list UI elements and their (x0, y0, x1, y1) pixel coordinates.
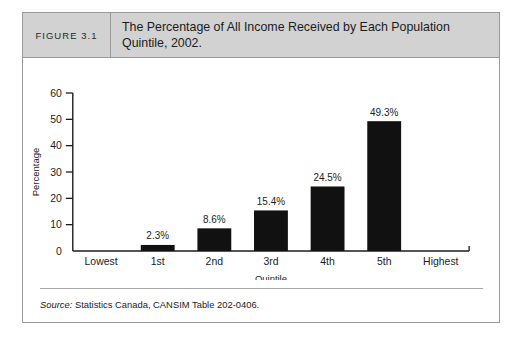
y-axis-tick-label: 30 (50, 167, 62, 178)
bar-value-label: 24.5% (313, 172, 341, 183)
x-axis-title: Quintile (255, 273, 287, 280)
bar-value-label: 2.3% (146, 230, 169, 241)
x-axis-tick-label: 1st (151, 256, 165, 267)
bar (311, 186, 345, 251)
y-axis-tick-label: 0 (56, 246, 62, 257)
y-axis-tick-label: 20 (50, 193, 62, 204)
y-axis-tick-label: 50 (50, 114, 62, 125)
x-axis-tick-label: 2nd (206, 256, 224, 267)
x-axis-tick-label: 4th (320, 256, 335, 267)
x-axis-tick-label: 3rd (263, 256, 278, 267)
bar-value-label: 49.3% (370, 107, 398, 118)
bar-value-label: 15.4% (257, 196, 285, 207)
bar (197, 228, 231, 251)
bar (141, 245, 175, 251)
figure-title-cell: The Percentage of All Income Received by… (111, 13, 499, 57)
y-axis-tick-label: 40 (50, 140, 62, 151)
source-prefix: Source: (40, 299, 72, 310)
x-axis-tick-label: 5th (377, 256, 392, 267)
y-axis-title: Percentage (30, 148, 41, 197)
bar-chart: 0102030405060Percentage2.3%8.6%15.4%24.5… (23, 58, 499, 280)
y-axis-tick-label: 60 (50, 88, 62, 99)
figure-title: The Percentage of All Income Received by… (122, 19, 474, 52)
x-axis-tick-label: Lowest (85, 256, 118, 267)
figure-container: FIGURE 3.1 The Percentage of All Income … (22, 12, 500, 323)
figure-header: FIGURE 3.1 The Percentage of All Income … (23, 13, 499, 58)
bar (254, 210, 288, 251)
figure-number-label: FIGURE 3.1 (35, 30, 97, 41)
source-text: Statistics Canada, CANSIM Table 202-0406… (75, 299, 259, 310)
source-divider (40, 288, 483, 289)
bar (367, 121, 401, 251)
bar-value-label: 8.6% (203, 214, 226, 225)
chart-area: 0102030405060Percentage2.3%8.6%15.4%24.5… (23, 58, 499, 280)
figure-number-cell: FIGURE 3.1 (23, 13, 111, 57)
x-axis-tick-label: Highest (423, 256, 459, 267)
source-note: Source: Statistics Canada, CANSIM Table … (40, 299, 259, 310)
y-axis-tick-label: 10 (50, 219, 62, 230)
